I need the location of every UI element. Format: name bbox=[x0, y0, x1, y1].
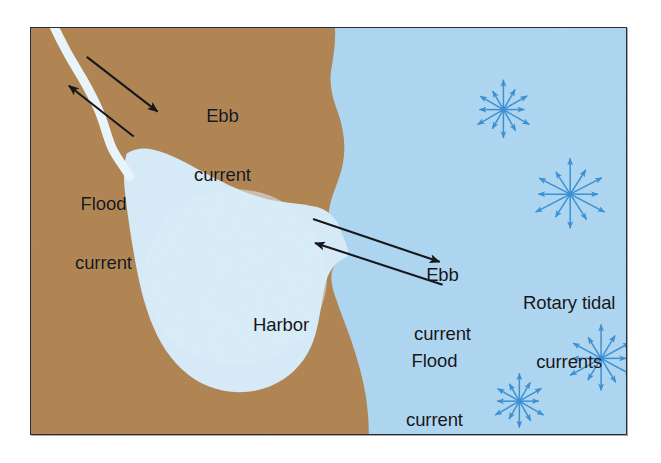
rotary-center-dot bbox=[501, 107, 505, 111]
diagram-frame: Ebb current Flood current Harbor Ebb cur… bbox=[30, 27, 627, 435]
diagram-canvas bbox=[31, 28, 626, 434]
rotary-center-dot bbox=[599, 356, 603, 360]
rotary-center-dot bbox=[568, 192, 572, 196]
rotary-center-dot bbox=[517, 399, 521, 403]
figure-root: Ebb current Flood current Harbor Ebb cur… bbox=[0, 0, 661, 463]
harbor-highlight bbox=[144, 189, 327, 364]
